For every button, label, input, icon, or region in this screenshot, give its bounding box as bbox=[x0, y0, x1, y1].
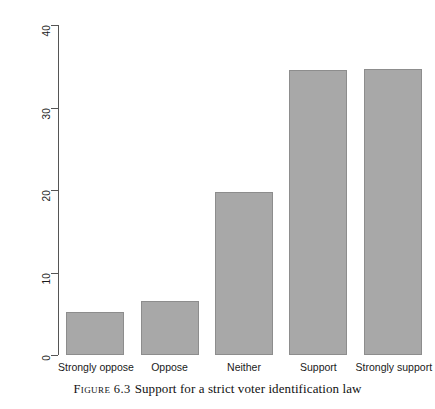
y-axis-tick-label: 0 bbox=[42, 355, 52, 361]
y-axis-tick bbox=[51, 108, 58, 109]
bar bbox=[66, 312, 124, 355]
y-axis-tick-label-wrap: 30 bbox=[0, 102, 47, 114]
y-axis-tick bbox=[51, 355, 58, 356]
figure-number: Figure 6.3 bbox=[73, 382, 130, 396]
y-axis-tick-label: 40 bbox=[42, 25, 52, 37]
bar bbox=[215, 192, 273, 355]
y-axis-tick-label-wrap: 10 bbox=[0, 267, 47, 279]
x-axis-label: Strongly oppose bbox=[58, 360, 132, 374]
bar bbox=[141, 301, 199, 355]
y-axis-tick bbox=[51, 25, 58, 26]
bar-series bbox=[58, 25, 430, 355]
x-axis-label: Neither bbox=[207, 360, 281, 374]
x-axis-label: Strongly support bbox=[356, 360, 430, 374]
bar bbox=[364, 69, 422, 355]
y-axis-tick bbox=[51, 190, 58, 191]
figure-panel: 010203040 Percent Strongly opposeOpposeN… bbox=[0, 0, 435, 409]
figure-caption: Figure 6.3Support for a strict voter ide… bbox=[0, 381, 435, 397]
y-axis-tick-label: 30 bbox=[42, 108, 52, 120]
y-axis-tick bbox=[51, 273, 58, 274]
y-axis-tick-label-wrap: 40 bbox=[0, 19, 47, 31]
y-axis-title: Percent bbox=[0, 189, 45, 203]
x-axis-label: Support bbox=[281, 360, 355, 374]
bar bbox=[289, 70, 347, 355]
y-axis-tick-label-wrap: 0 bbox=[0, 349, 47, 361]
x-axis-label: Oppose bbox=[132, 360, 206, 374]
y-axis-tick-label: 10 bbox=[42, 273, 52, 285]
figure-caption-text: Support for a strict voter identificatio… bbox=[135, 381, 362, 396]
x-axis-labels: Strongly opposeOpposeNeitherSupportStron… bbox=[58, 360, 430, 376]
